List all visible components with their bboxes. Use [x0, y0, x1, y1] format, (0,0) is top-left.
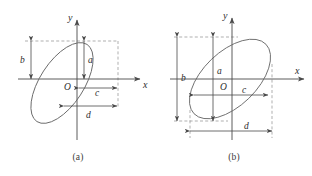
axes-a [18, 20, 140, 140]
construction-lines-a [25, 41, 118, 108]
origin-label-b: O [220, 82, 227, 92]
x-axis-label-a: x [142, 79, 148, 90]
dimension-d-label-b: d [244, 121, 249, 131]
figure-root: b a c d y x O (a) [0, 0, 312, 176]
dimension-a-label-a: a [88, 55, 93, 65]
y-axis-label-a: y [67, 12, 73, 23]
panel-a-caption: (a) [0, 152, 156, 162]
panel-a-drawing: b a c d y x O [0, 0, 156, 176]
panel-a: b a c d y x O (a) [0, 0, 156, 176]
dimension-a-label-b: a [217, 66, 222, 76]
x-axis-label-b: x [294, 65, 300, 76]
dimension-b-label-a: b [20, 55, 25, 65]
panel-b-drawing: b a c d y x O [156, 0, 312, 176]
ellipse-curve-a [18, 32, 105, 133]
y-axis-label-b: y [222, 10, 228, 21]
dimension-c-label-b: c [242, 85, 247, 95]
dimension-d-label-a: d [86, 110, 91, 120]
panel-b-caption: (b) [156, 152, 312, 162]
panel-b: b a c d y x O (b) [156, 0, 312, 176]
dimension-b-label-b: b [181, 73, 186, 83]
dimension-c-label-a: c [95, 88, 100, 98]
origin-label-a: O [64, 82, 71, 92]
